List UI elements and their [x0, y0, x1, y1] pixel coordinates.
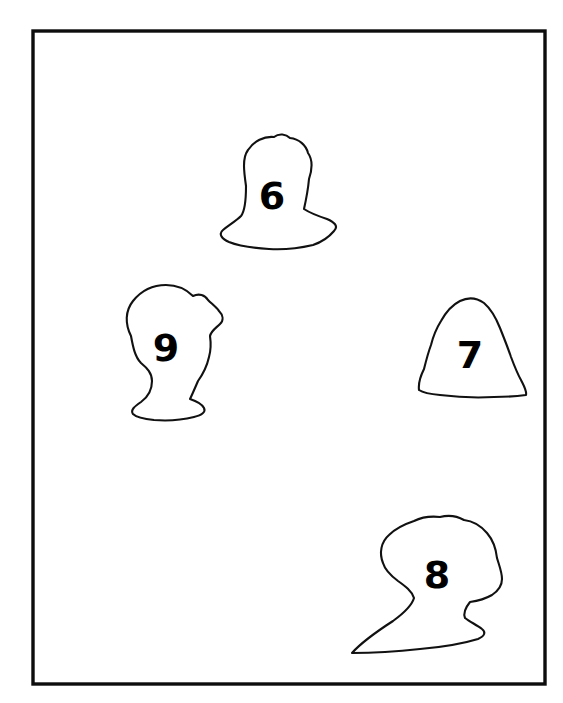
shape-label-9: 9 [153, 326, 179, 370]
shape-group-6[interactable]: 6 [221, 134, 336, 249]
shape-label-6: 6 [259, 174, 285, 218]
shape-group-9[interactable]: 9 [127, 285, 223, 420]
shape-group-7[interactable]: 7 [419, 299, 526, 398]
shape-label-7: 7 [457, 333, 483, 377]
shape-label-8: 8 [424, 553, 450, 597]
figure-root: 6 9 7 8 [0, 0, 563, 703]
silhouette-diagram-canvas: 6 9 7 8 [0, 0, 563, 703]
shape-group-8[interactable]: 8 [352, 516, 502, 653]
